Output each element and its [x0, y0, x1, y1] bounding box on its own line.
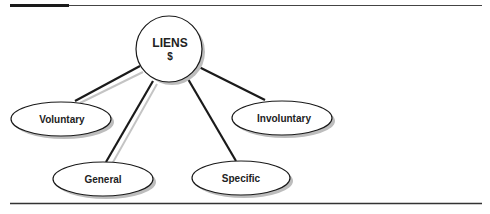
liens-diagram: LIENS $ Voluntary General Specific Invol… — [0, 0, 490, 214]
node-label: Voluntary — [39, 114, 85, 125]
connector-involuntary — [199, 67, 265, 100]
node-label: Specific — [222, 173, 261, 184]
figure-label-rule — [10, 4, 69, 7]
connector-specific — [188, 79, 236, 161]
center-node: LIENS $ — [136, 16, 205, 85]
node-specific: Specific — [192, 161, 293, 198]
connector-voluntary — [75, 66, 140, 101]
node-label: Involuntary — [257, 113, 311, 124]
node-involuntary: Involuntary — [232, 101, 335, 138]
center-title: LIENS — [152, 36, 187, 50]
node-voluntary: Voluntary — [11, 102, 114, 139]
center-symbol: $ — [167, 51, 173, 62]
node-label: General — [84, 174, 121, 185]
node-general: General — [53, 162, 156, 199]
